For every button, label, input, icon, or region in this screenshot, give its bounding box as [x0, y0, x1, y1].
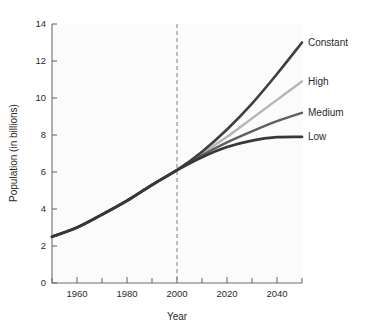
- x-tick-label: 2000: [166, 288, 187, 299]
- y-tick-label: 6: [41, 166, 46, 177]
- y-tick-label: 10: [35, 92, 46, 103]
- series-label-high: High: [308, 76, 329, 87]
- x-tick-label: 1960: [66, 288, 87, 299]
- series-label-low: Low: [308, 131, 327, 142]
- y-tick-label: 12: [35, 55, 46, 66]
- y-tick-label: 0: [41, 277, 46, 288]
- y-axis-title: Population (in billions): [8, 104, 19, 202]
- population-projection-chart: 02468101214 19601980200020202040 Constan…: [0, 0, 365, 327]
- y-tick-label: 8: [41, 129, 46, 140]
- y-tick-label: 14: [35, 18, 46, 29]
- y-tick-label: 4: [41, 203, 46, 214]
- x-tick-label: 2040: [266, 288, 287, 299]
- x-tick-label: 2020: [216, 288, 237, 299]
- x-tick-label: 1980: [116, 288, 137, 299]
- y-tick-label: 2: [41, 240, 46, 251]
- x-axis-title: Year: [167, 311, 188, 322]
- series-label-medium: Medium: [308, 107, 344, 118]
- series-label-constant: Constant: [308, 37, 348, 48]
